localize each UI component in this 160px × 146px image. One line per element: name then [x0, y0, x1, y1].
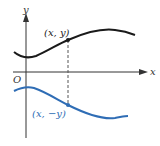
point-original-label: (x, y): [44, 27, 70, 38]
point-reflected: [66, 103, 70, 107]
point-reflected-label: (x, −y): [32, 108, 66, 119]
y-axis-label: y: [22, 4, 29, 15]
x-axis-arrow-icon: [139, 69, 148, 75]
origin-label: O: [13, 74, 21, 85]
point-original: [66, 38, 70, 42]
x-axis-label: x: [150, 66, 156, 77]
reflection-diagram: y x O (x, y) (x, −y): [0, 0, 160, 146]
original-curve: [14, 30, 135, 58]
